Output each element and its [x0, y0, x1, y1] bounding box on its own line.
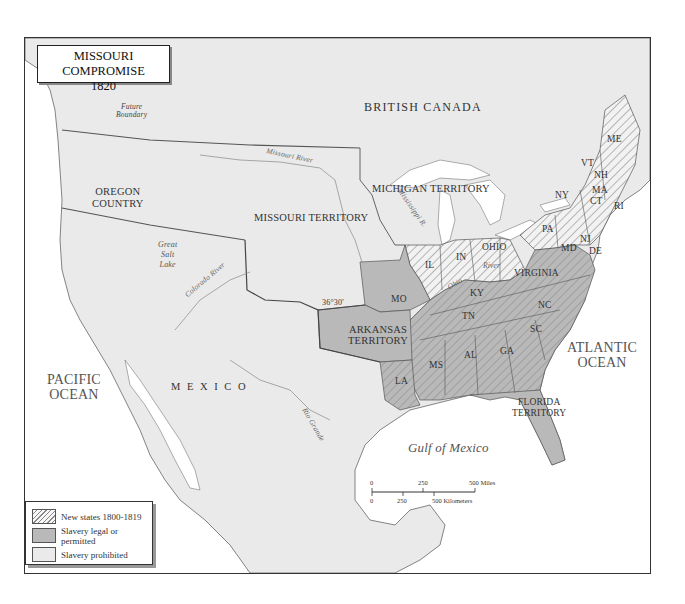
label-mexico: M E X I C O — [171, 381, 248, 392]
scale-km-500: 500 Kilometers — [432, 497, 472, 504]
label-state-pa: PA — [542, 224, 554, 234]
label-state-nc: NC — [538, 300, 552, 310]
label-great-salt-lake: Great Salt Lake — [158, 240, 177, 270]
label-state-vt: VT — [581, 158, 594, 168]
label-florida-line2: TERRITORY — [512, 408, 566, 419]
label-oregon-line1: OREGON — [92, 186, 144, 198]
label-atlantic-ocean: ATLANTIC OCEAN — [567, 340, 637, 370]
label-florida-territory: FLORIDA TERRITORY — [512, 397, 566, 419]
label-michigan-territory: MICHIGAN TERRITORY — [372, 183, 490, 194]
label-fb-line2: Boundary — [116, 111, 147, 119]
label-arkansas-territory: ARKANSAS TERRITORY — [348, 324, 408, 346]
label-florida-line1: FLORIDA — [512, 397, 566, 408]
label-state-al: AL — [464, 350, 477, 360]
legend-item-slavery-prohibited: Slavery prohibited — [32, 545, 152, 564]
label-state-in: IN — [456, 252, 466, 262]
scale-km-0: 0 — [370, 497, 373, 504]
label-state-ga: GA — [500, 346, 514, 356]
label-atlantic-line1: ATLANTIC — [567, 340, 637, 355]
title-line2: 1820 — [38, 79, 169, 94]
label-state-ny: NY — [555, 190, 569, 200]
scale-miles-500: 500 Miles — [469, 479, 495, 486]
label-arkansas-line1: ARKANSAS — [348, 324, 408, 335]
label-oregon-line2: COUNTRY — [92, 198, 144, 210]
scale-miles-250: 250 — [418, 479, 428, 486]
hatch-swatch-icon — [32, 509, 56, 524]
light-swatch-icon — [32, 547, 56, 562]
label-state-tn: TN — [462, 311, 475, 321]
label-state-ky: KY — [470, 288, 484, 298]
label-state-nh: NH — [594, 170, 608, 180]
scale-km-250: 250 — [397, 497, 407, 504]
label-gsl-line3: Lake — [158, 260, 177, 270]
label-pacific-line1: PACIFIC — [47, 372, 101, 387]
label-state-me: ME — [607, 134, 622, 144]
label-state-mo: MO — [391, 294, 407, 304]
label-ohio-river: River — [483, 261, 500, 270]
label-state-ma: MA — [592, 185, 608, 195]
label-state-il: IL — [425, 260, 434, 270]
map-title: MISSOURI COMPROMISE 1820 — [37, 45, 170, 83]
label-state-va: VIRGINIA — [514, 268, 559, 278]
label-future-boundary: Future Boundary — [116, 103, 147, 119]
scale-miles-0: 0 — [370, 479, 373, 486]
label-gsl-line2: Salt — [158, 250, 177, 260]
label-atlantic-line2: OCEAN — [567, 355, 637, 370]
label-state-ms: MS — [429, 360, 443, 370]
label-state-nj: NJ — [580, 234, 591, 244]
legend-label: Slavery legal or permitted — [61, 526, 152, 546]
label-state-de: DE — [589, 246, 602, 256]
dark-swatch-icon — [32, 528, 56, 543]
legend-label: Slavery prohibited — [61, 550, 128, 560]
label-state-la: LA — [395, 376, 408, 386]
label-missouri-territory: MISSOURI TERRITORY — [254, 212, 368, 223]
label-arkansas-line2: TERRITORY — [348, 335, 408, 346]
label-gulf-of-mexico: Gulf of Mexico — [408, 440, 489, 456]
legend-label: New states 1800-1819 — [61, 512, 142, 522]
label-state-ri: RI — [614, 201, 624, 211]
label-36-30-parallel: 36°30' — [322, 298, 344, 307]
label-state-ct: CT — [590, 196, 603, 206]
label-oregon-country: OREGON COUNTRY — [92, 186, 144, 210]
label-british-canada: BRITISH CANADA — [364, 100, 482, 115]
label-pacific-line2: OCEAN — [47, 387, 101, 402]
label-pacific-ocean: PACIFIC OCEAN — [47, 372, 101, 402]
legend-item-new-states: New states 1800-1819 — [32, 507, 152, 526]
title-line1: MISSOURI COMPROMISE — [38, 49, 169, 79]
scale-bar: 0 250 500 Miles 0 250 500 Kilometers — [370, 478, 510, 518]
label-gsl-line1: Great — [158, 240, 177, 250]
legend-item-slavery-legal: Slavery legal or permitted — [32, 526, 152, 545]
legend: New states 1800-1819 Slavery legal or pe… — [25, 501, 153, 565]
label-state-sc: SC — [530, 324, 542, 334]
label-state-md: MD — [561, 243, 577, 253]
label-state-oh: OHIO — [482, 242, 507, 252]
